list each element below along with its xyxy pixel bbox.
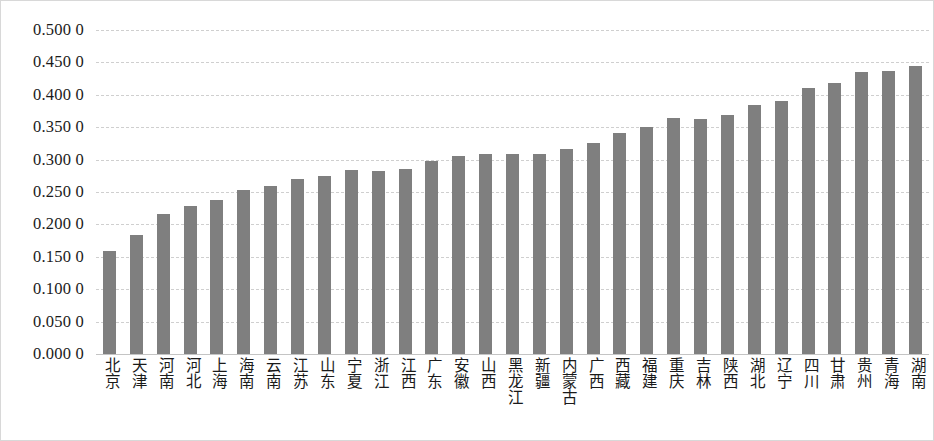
y-axis: 0.500 00.450 00.400 00.350 00.300 00.250…: [1, 1, 96, 441]
y-axis-tick-label: 0.150 0: [33, 247, 84, 267]
bar: [157, 214, 170, 354]
x-axis-tick-label: 广东: [422, 357, 441, 389]
x-axis-tick-label: 山东: [315, 357, 334, 389]
x-axis-tick-label: 云南: [261, 357, 280, 389]
y-axis-tick-label: 0.000 0: [33, 344, 84, 364]
x-axis-tick-label: 贵州: [852, 357, 871, 389]
x-axis-tick-label: 天津: [127, 357, 146, 389]
y-axis-tick-label: 0.250 0: [33, 182, 84, 202]
bar: [506, 154, 519, 354]
x-axis-tick-label: 甘肃: [825, 357, 844, 389]
y-axis-tick-label: 0.200 0: [33, 214, 84, 234]
x-axis-tick-label: 福建: [637, 357, 656, 389]
x-axis-tick-label: 黑龙江: [503, 357, 522, 405]
x-axis-tick-label: 新疆: [530, 357, 549, 389]
y-axis-tick-label: 0.100 0: [33, 279, 84, 299]
x-axis-tick-label: 上海: [207, 357, 226, 389]
x-axis-tick-label: 河南: [154, 357, 173, 389]
x-axis-tick-label: 宁夏: [342, 357, 361, 389]
bar: [613, 133, 626, 354]
plot-area: [96, 30, 929, 354]
x-axis-tick-label: 广西: [584, 357, 603, 389]
x-axis-tick-label: 西藏: [610, 357, 629, 389]
bar: [748, 105, 761, 354]
gridline: [96, 354, 929, 355]
y-axis-tick-label: 0.300 0: [33, 150, 84, 170]
bar: [775, 101, 788, 354]
bar: [130, 235, 143, 354]
bar: [533, 154, 546, 354]
x-axis-tick-label: 山西: [476, 357, 495, 389]
bar: [560, 149, 573, 354]
x-axis-tick-label: 江西: [396, 357, 415, 389]
x-axis-tick-label: 河北: [181, 357, 200, 389]
x-axis-tick-label: 北京: [100, 357, 119, 389]
x-axis-tick-label: 江苏: [288, 357, 307, 389]
bar: [425, 161, 438, 354]
bar-series: [96, 30, 929, 354]
bar: [909, 66, 922, 354]
bar: [237, 190, 250, 354]
y-axis-tick-label: 0.400 0: [33, 85, 84, 105]
bar: [587, 143, 600, 354]
x-axis-tick-label: 辽宁: [772, 357, 791, 389]
x-axis-tick-label: 浙江: [369, 357, 388, 389]
x-axis-tick-label: 陕西: [718, 357, 737, 389]
x-axis-tick-label: 四川: [799, 357, 818, 389]
y-axis-tick-label: 0.350 0: [33, 117, 84, 137]
y-axis-tick-label: 0.050 0: [33, 312, 84, 332]
bar: [291, 179, 304, 354]
x-axis-tick-label: 湖北: [745, 357, 764, 389]
x-axis-tick-label: 内蒙古: [557, 357, 576, 405]
bar: [399, 169, 412, 354]
bar: [855, 72, 868, 354]
bar: [721, 115, 734, 354]
bar: [264, 186, 277, 354]
x-axis-tick-label: 湖南: [906, 357, 925, 389]
bar: [318, 176, 331, 354]
bar: [184, 206, 197, 354]
x-axis-tick-label: 吉林: [691, 357, 710, 389]
y-axis-tick-label: 0.500 0: [33, 20, 84, 40]
bar: [103, 251, 116, 354]
bar: [828, 83, 841, 355]
x-axis: 北京天津河南河北上海海南云南江苏山东宁夏浙江江西广东安徽山西黑龙江新疆内蒙古广西…: [96, 357, 929, 441]
bar: [802, 88, 815, 354]
bar: [667, 118, 680, 354]
y-axis-tick-label: 0.450 0: [33, 52, 84, 72]
x-axis-tick-label: 安徽: [449, 357, 468, 389]
bar: [640, 127, 653, 354]
bar: [210, 200, 223, 354]
x-axis-tick-label: 青海: [879, 357, 898, 389]
bar: [882, 71, 895, 354]
x-axis-tick-label: 重庆: [664, 357, 683, 389]
bar: [345, 170, 358, 354]
x-axis-tick-label: 海南: [234, 357, 253, 389]
bar: [372, 171, 385, 354]
bar: [452, 156, 465, 354]
bar: [694, 119, 707, 354]
bar: [479, 154, 492, 354]
bar-chart: 0.500 00.450 00.400 00.350 00.300 00.250…: [0, 0, 934, 441]
